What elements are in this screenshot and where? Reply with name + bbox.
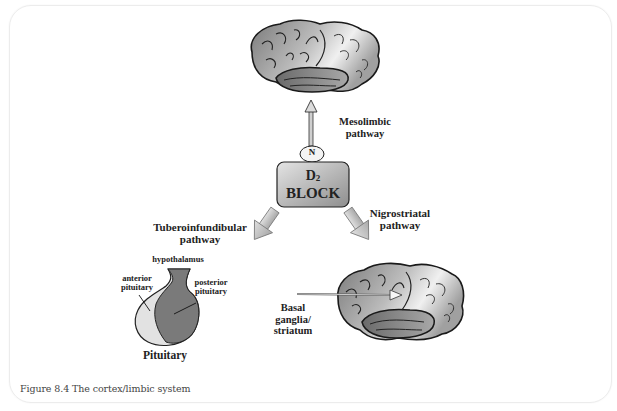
mesolimbic-pathway-label: Mesolimbic pathway: [325, 116, 405, 139]
tuberoinfundibular-line2: pathway: [143, 233, 257, 245]
mesolimbic-line1: Mesolimbic: [325, 116, 405, 128]
nigrostriatal-pathway-label: Nigrostriatal pathway: [360, 207, 440, 231]
posterior-pituitary-label: posterior pituitary: [188, 278, 234, 297]
n-node-label: N: [306, 148, 318, 158]
diagram-canvas: [0, 0, 617, 411]
basal-ganglia-label: Basal ganglia/ striatum: [265, 302, 321, 337]
d2-label-d: D: [306, 168, 316, 183]
mesolimbic-arrow: [305, 100, 317, 146]
block-label: BLOCK: [277, 185, 349, 202]
d2-label-sub: 2: [316, 173, 321, 183]
anterior-line2: pituitary: [115, 283, 159, 292]
figure-caption: Figure 8.4 The cortex/limbic system: [20, 383, 190, 394]
basal-line1: Basal: [265, 302, 321, 314]
nigrostriatal-line1: Nigrostriatal: [360, 207, 440, 219]
pituitary-title: Pituitary: [130, 349, 200, 362]
d2-block-label: D2 BLOCK: [277, 168, 349, 201]
posterior-line2: pituitary: [188, 287, 234, 296]
tuberoinfundibular-pathway-label: Tuberoinfundibular pathway: [143, 221, 257, 245]
basal-line2: ganglia/: [265, 314, 321, 326]
brain-bottom-illustration: [338, 263, 464, 339]
mesolimbic-line2: pathway: [325, 128, 405, 140]
tuberoinfundibular-line1: Tuberoinfundibular: [143, 221, 257, 233]
hypothalamus-label: hypothalamus: [140, 255, 216, 264]
basal-line3: striatum: [265, 325, 321, 337]
nigrostriatal-line2: pathway: [360, 219, 440, 231]
anterior-pituitary-label: anterior pituitary: [115, 274, 159, 293]
brain-top-illustration: [251, 20, 379, 92]
